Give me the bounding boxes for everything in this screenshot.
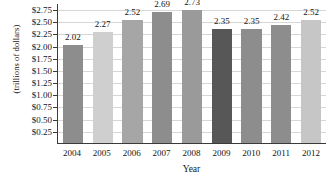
x-axis-tick-label: 2008 — [177, 148, 207, 158]
bar-slot: 2.69 — [147, 4, 177, 143]
bar-value-label: 2.27 — [95, 20, 111, 29]
x-axis-tick-label: 2010 — [236, 148, 266, 158]
bar-value-label: 2.69 — [154, 0, 170, 9]
bar-slot: 2.52 — [296, 4, 326, 143]
y-axis-tick-label: $1.25 — [16, 79, 52, 88]
y-axis-tick-label: $0.50 — [16, 115, 52, 124]
x-axis-tick-labels: 200420052006200720082009201020112012 — [57, 148, 326, 158]
bar-series: 2.022.272.522.692.732.352.352.422.52 — [58, 4, 326, 143]
bar: 2.27 — [93, 32, 113, 143]
bar-slot: 2.73 — [177, 4, 207, 143]
x-axis-tick-label: 2004 — [57, 148, 87, 158]
y-axis-tick-mark — [53, 71, 57, 72]
bar-value-label: 2.42 — [273, 13, 289, 22]
bar: 2.35 — [241, 29, 261, 143]
bar: 2.35 — [212, 29, 232, 143]
plot-area: 2.022.272.522.692.732.352.352.422.52 — [57, 4, 326, 144]
y-axis-tick-mark — [53, 10, 57, 11]
y-axis-tick-mark — [53, 107, 57, 108]
y-axis-tick-label: $0.75 — [16, 103, 52, 112]
bar-slot: 2.35 — [237, 4, 267, 143]
bar-value-label: 2.35 — [244, 17, 260, 26]
y-axis-tick-mark — [53, 83, 57, 84]
bar: 2.52 — [122, 20, 142, 143]
bar-value-label: 2.52 — [125, 8, 141, 17]
bar: 2.02 — [63, 45, 83, 143]
x-axis-tick-label: 2005 — [87, 148, 117, 158]
x-axis-title: Year — [57, 164, 326, 174]
x-axis-tick-label: 2012 — [296, 148, 326, 158]
y-axis-tick-label: $0.25 — [16, 127, 52, 136]
y-axis-tick-label: $2.25 — [16, 30, 52, 39]
y-axis-tick-label: $1.00 — [16, 91, 52, 100]
bar-slot: 2.42 — [266, 4, 296, 143]
bar-slot: 2.27 — [88, 4, 118, 143]
bar-value-label: 2.52 — [303, 8, 319, 17]
y-axis-tick-label: $1.50 — [16, 66, 52, 75]
y-axis-tick-mark — [53, 47, 57, 48]
bar: 2.52 — [301, 20, 321, 143]
x-axis-tick-label: 2007 — [147, 148, 177, 158]
y-axis-tick-label: $1.75 — [16, 54, 52, 63]
bar: 2.69 — [152, 12, 172, 143]
x-axis-tick-label: 2009 — [206, 148, 236, 158]
bar-slot: 2.02 — [58, 4, 88, 143]
y-axis-tick-label: $2.50 — [16, 18, 52, 27]
bar: 2.73 — [182, 10, 202, 143]
bar-slot: 2.52 — [118, 4, 148, 143]
y-axis-tick-mark — [53, 59, 57, 60]
bar-chart: (trillions of dollars) $0.25$0.50$0.75$1… — [0, 0, 330, 182]
y-axis-tick-mark — [53, 95, 57, 96]
x-axis-tick-label: 2011 — [266, 148, 296, 158]
y-axis-tick-labels: $0.25$0.50$0.75$1.00$1.25$1.50$1.75$2.00… — [16, 4, 52, 144]
bar: 2.42 — [271, 25, 291, 143]
y-axis-tick-mark — [53, 132, 57, 133]
y-axis-tick-label: $2.00 — [16, 42, 52, 51]
bar-slot: 2.35 — [207, 4, 237, 143]
x-axis-tick-label: 2006 — [117, 148, 147, 158]
bar-value-label: 2.02 — [65, 33, 81, 42]
y-axis-tick-mark — [53, 22, 57, 23]
y-axis-tick-label: $2.75 — [16, 6, 52, 15]
y-axis-tick-mark — [53, 34, 57, 35]
y-axis-tick-mark — [53, 120, 57, 121]
bar-value-label: 2.35 — [214, 17, 230, 26]
bar-value-label: 2.73 — [184, 0, 200, 7]
